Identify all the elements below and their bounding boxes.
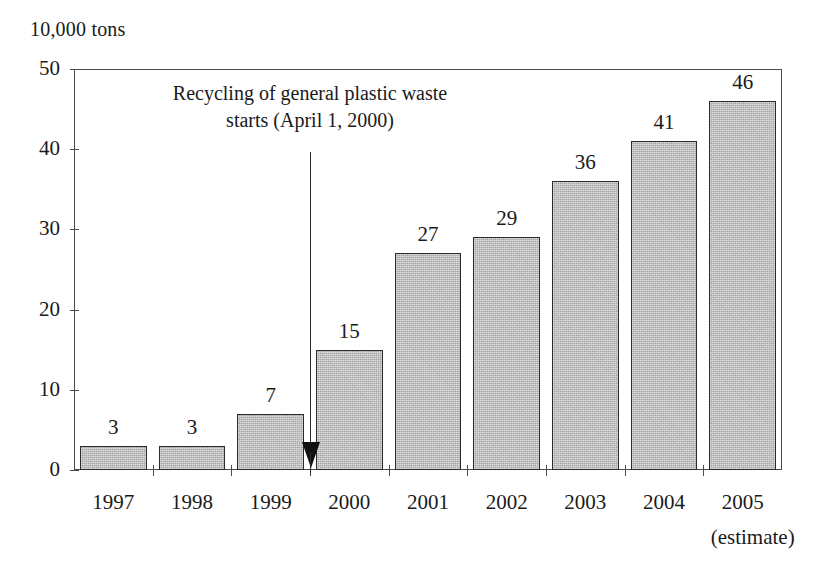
y-axis-tick-label: 50 (16, 58, 60, 79)
y-axis-tick-label: 20 (16, 299, 60, 320)
bar-1999 (237, 414, 303, 470)
bar-2003 (552, 181, 618, 470)
y-axis-tick-mark (70, 149, 79, 150)
bar-value-label-2000: 15 (309, 321, 389, 342)
x-axis-tick-mark (153, 465, 154, 476)
estimate-note: (estimate) (673, 527, 833, 548)
y-axis-tick-mark (70, 390, 79, 391)
bar-value-label-2002: 29 (467, 208, 547, 229)
bar-value-label-1997: 3 (73, 417, 153, 438)
annotation-recycling-start: Recycling of general plastic waste start… (130, 80, 490, 134)
x-axis-tick-mark (467, 465, 468, 476)
bar-2001 (395, 253, 461, 470)
x-axis-label-2005: 2005 (693, 492, 793, 513)
y-axis-tick-label: 30 (16, 218, 60, 239)
bar-2000 (316, 350, 382, 470)
y-axis-tick-mark (70, 69, 79, 70)
y-axis-tick-mark (70, 310, 79, 311)
bar-value-label-2001: 27 (388, 224, 468, 245)
x-axis-tick-mark (625, 465, 626, 476)
bar-value-label-1998: 3 (152, 417, 232, 438)
bar-chart: 10,000 tons 01020304050 337152729364146 … (0, 0, 835, 574)
y-axis-tick-mark (70, 470, 79, 471)
y-axis-unit-title: 10,000 tons (30, 18, 126, 41)
bar-1997 (80, 446, 146, 470)
bar-value-label-2003: 36 (545, 152, 625, 173)
bar-2005 (709, 101, 775, 470)
x-axis-tick-mark (703, 465, 704, 476)
x-axis-tick-mark (546, 465, 547, 476)
x-axis-tick-mark (389, 465, 390, 476)
x-axis-tick-mark (231, 465, 232, 476)
bar-value-label-1999: 7 (231, 385, 311, 406)
annotation-arrow-line (310, 152, 311, 452)
bar-value-label-2005: 46 (703, 72, 783, 93)
bar-2002 (473, 237, 539, 470)
y-axis-tick-mark (70, 229, 79, 230)
y-axis-tick-label: 0 (16, 459, 60, 480)
bar-value-label-2004: 41 (624, 112, 704, 133)
y-axis-tick-label: 10 (16, 379, 60, 400)
bar-2004 (631, 141, 697, 470)
y-axis-tick-label: 40 (16, 138, 60, 159)
annotation-arrow-stem-lower (310, 452, 311, 474)
bar-1998 (159, 446, 225, 470)
